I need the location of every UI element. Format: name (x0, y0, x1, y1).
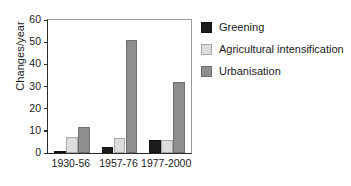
plot-area: 0102030405060 (47, 19, 192, 154)
y-axis-title: Changes/year (14, 0, 26, 116)
x-tick-label: 1977-2000 (136, 157, 196, 170)
bar-group (54, 20, 90, 153)
y-tick-label: 50 (29, 35, 41, 48)
bar (161, 140, 173, 153)
legend-item[interactable]: Urbanisation (201, 62, 351, 81)
bar (114, 138, 126, 153)
legend-swatch-icon (201, 44, 212, 55)
legend-swatch-icon (201, 22, 212, 33)
legend-label: Agricultural intensification (219, 43, 344, 56)
legend-item[interactable]: Agricultural intensification (201, 40, 351, 59)
y-tick-label: 60 (29, 13, 41, 26)
bar (102, 147, 114, 153)
bar (173, 82, 185, 153)
chart-legend: GreeningAgricultural intensificationUrba… (201, 18, 351, 84)
bar-group (102, 20, 138, 153)
legend-swatch-icon (201, 66, 212, 77)
bar (66, 137, 78, 153)
bar (54, 151, 66, 153)
legend-item[interactable]: Greening (201, 18, 351, 37)
y-tick-label: 30 (29, 80, 41, 93)
bar-group (149, 20, 185, 153)
legend-label: Greening (219, 21, 264, 34)
y-tick-mark (44, 130, 48, 131)
y-tick-mark (44, 64, 48, 65)
y-tick-mark (44, 42, 48, 43)
y-tick-mark (44, 20, 48, 21)
bar (78, 127, 90, 153)
y-tick-mark (44, 153, 48, 154)
y-tick-label: 10 (29, 124, 41, 137)
y-tick-label: 40 (29, 57, 41, 70)
bar (149, 140, 161, 153)
y-tick-label: 20 (29, 102, 41, 115)
legend-label: Urbanisation (219, 65, 281, 78)
bar-chart-figure: Changes/year 0102030405060 1930-561957-7… (0, 0, 351, 186)
y-tick-mark (44, 108, 48, 109)
y-tick-mark (44, 86, 48, 87)
bar (126, 40, 138, 153)
